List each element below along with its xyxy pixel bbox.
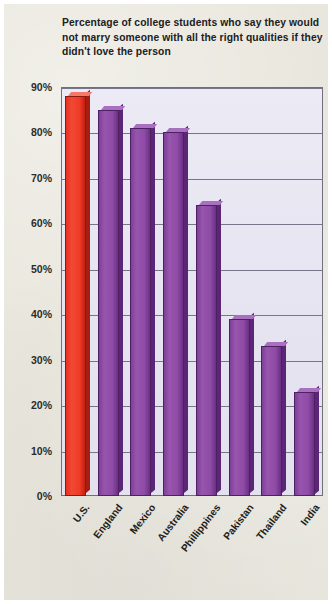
y-axis-tick-90: 90% [31, 81, 52, 93]
bar-face [229, 319, 250, 496]
chart-page: Percentage of college students who say t… [4, 4, 328, 600]
bar-mexico[interactable] [130, 128, 151, 496]
bar-side-shading [86, 90, 90, 493]
x-axis-label-england: England [91, 502, 124, 540]
y-axis-tick-40: 40% [31, 308, 52, 320]
x-axis-label-india: India [298, 502, 321, 528]
x-axis-label-us: U.S. [71, 502, 92, 524]
bar-australia[interactable] [163, 132, 184, 496]
x-axis-label-mexico: Mexico [128, 502, 158, 536]
bar-india[interactable] [294, 392, 315, 497]
bar-side-shading [217, 199, 221, 493]
bar-side-shading [250, 313, 254, 493]
y-axis-tick-70: 70% [31, 172, 52, 184]
bar-face [261, 346, 282, 496]
bar-side-shading [119, 104, 123, 493]
bar-side-shading [184, 126, 188, 493]
plot-wrapper [61, 87, 323, 496]
y-axis-tick-20: 20% [31, 399, 52, 411]
x-axis-label-thailand: Thailand [254, 502, 288, 542]
bar-side-shading [151, 122, 155, 493]
chart-title: Percentage of college students who say t… [62, 16, 324, 60]
y-axis-tick-50: 50% [31, 263, 52, 275]
bar-phillippines[interactable] [196, 205, 217, 496]
bar-us[interactable] [65, 96, 86, 496]
bar-face [130, 128, 151, 496]
y-axis-tick-10: 10% [31, 445, 52, 457]
bar-side-shading [315, 385, 319, 493]
bar-series [61, 87, 323, 496]
bar-side-shading [282, 340, 286, 493]
bar-thailand[interactable] [261, 346, 282, 496]
y-axis-tick-80: 80% [31, 126, 52, 138]
bar-pakistan[interactable] [229, 319, 250, 496]
x-axis: U.S.EnglandMexicoAustraliaPhillippinesPa… [4, 496, 328, 600]
bar-face [98, 110, 119, 496]
bar-england[interactable] [98, 110, 119, 496]
y-axis-tick-60: 60% [31, 217, 52, 229]
bar-face [196, 205, 217, 496]
y-axis-tick-30: 30% [31, 354, 52, 366]
y-axis: 90%80%70%60%50%40%30%20%10%0% [4, 87, 61, 496]
bar-face [65, 96, 86, 496]
bar-face [294, 392, 315, 497]
x-axis-label-pakistan: Pakistan [221, 502, 255, 542]
bar-face [163, 132, 184, 496]
